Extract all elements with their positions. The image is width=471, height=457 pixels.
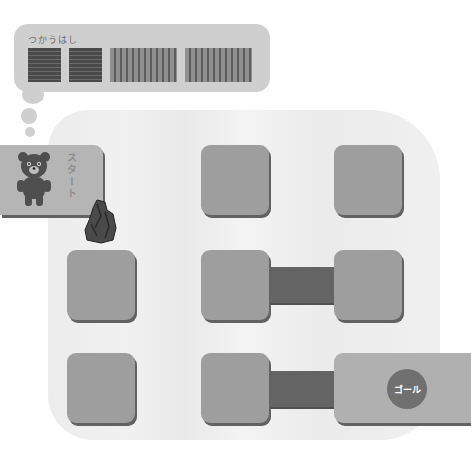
tile-r2-c2[interactable] bbox=[201, 250, 269, 320]
bubble-tail-large bbox=[22, 86, 44, 104]
tile-r2-c3[interactable] bbox=[334, 250, 402, 320]
rock-icon bbox=[83, 198, 119, 244]
placed-bridge-row3[interactable] bbox=[266, 371, 336, 407]
bubble-tail-medium bbox=[21, 108, 37, 124]
bear-icon[interactable] bbox=[14, 150, 54, 208]
placed-bridge-row2[interactable] bbox=[266, 267, 336, 303]
tile-r3-c2[interactable] bbox=[201, 353, 269, 423]
bridge-piece-long-2[interactable] bbox=[185, 48, 252, 82]
tile-r1-c2[interactable] bbox=[201, 145, 269, 215]
tile-r3-c1[interactable] bbox=[67, 353, 135, 423]
start-label: スタート bbox=[63, 152, 78, 200]
bridge-piece-short-1[interactable] bbox=[28, 48, 61, 82]
goal-label: ゴール bbox=[387, 369, 427, 409]
tile-r2-c1[interactable] bbox=[67, 250, 135, 320]
bubble-tail-small bbox=[25, 127, 35, 137]
bridge-inventory-label: つかうはし bbox=[28, 33, 78, 46]
tile-r1-c3[interactable] bbox=[334, 145, 402, 215]
bridge-piece-short-2[interactable] bbox=[69, 48, 102, 82]
bridge-piece-long-1[interactable] bbox=[110, 48, 177, 82]
